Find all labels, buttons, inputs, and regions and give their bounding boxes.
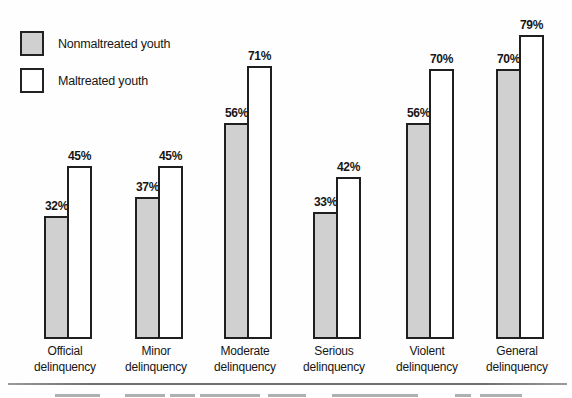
figure-prevalence-of-delinquency: Nonmaltreated youth Maltreated youth 32%…: [0, 0, 572, 398]
bar-nonmaltreated-minor: [135, 197, 160, 339]
bar-maltreated-official: [67, 166, 92, 339]
category-label-general: Generaldelinquency: [486, 343, 548, 375]
bar-value-label-maltreated-general: 79%: [520, 18, 543, 32]
bar-value-label-maltreated-serious: 42%: [337, 160, 360, 174]
bar-value-label-maltreated-official: 45%: [68, 149, 91, 163]
bar-value-label-maltreated-violent: 70%: [430, 52, 453, 66]
bottom-rule: [8, 383, 567, 385]
bar-nonmaltreated-general: [496, 69, 521, 339]
category-label-minor: Minordelinquency: [125, 343, 187, 375]
bar-value-label-maltreated-moderate: 71%: [248, 49, 271, 63]
bar-maltreated-minor: [158, 166, 183, 339]
category-label-moderate: Moderatedelinquency: [214, 343, 276, 375]
bar-maltreated-general: [519, 35, 544, 339]
bar-nonmaltreated-moderate: [224, 123, 249, 339]
cropped-caption-remnant: [0, 394, 572, 398]
bar-nonmaltreated-official: [44, 216, 69, 339]
bar-value-label-maltreated-minor: 45%: [159, 149, 182, 163]
bar-value-label-nonmaltreated-serious: 33%: [314, 195, 337, 209]
bar-value-label-nonmaltreated-official: 32%: [45, 199, 68, 213]
bar-value-label-nonmaltreated-general: 70%: [497, 52, 520, 66]
bar-value-label-nonmaltreated-violent: 56%: [407, 106, 430, 120]
category-label-serious: Seriousdelinquency: [303, 343, 365, 375]
category-label-official: Officialdelinquency: [34, 343, 96, 375]
bar-maltreated-serious: [336, 177, 361, 339]
bar-maltreated-violent: [429, 69, 454, 339]
bar-maltreated-moderate: [247, 66, 272, 339]
bar-nonmaltreated-violent: [406, 123, 431, 339]
bar-value-label-nonmaltreated-minor: 37%: [136, 180, 159, 194]
category-label-violent: Violentdelinquency: [396, 343, 458, 375]
bar-value-label-nonmaltreated-moderate: 56%: [225, 106, 248, 120]
bar-chart: 32%45%Officialdelinquency37%45%Minordeli…: [0, 0, 572, 398]
bar-nonmaltreated-serious: [313, 212, 338, 339]
